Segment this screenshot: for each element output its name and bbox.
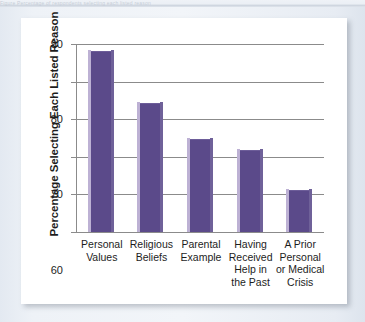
x-axis-label-line: Religious [127, 238, 177, 251]
y-axis-line [76, 44, 77, 232]
bar [237, 150, 263, 232]
y-axis-tick: 60 [71, 157, 76, 158]
y-axis-tick: 50 [71, 194, 76, 195]
x-axis-category-label: ParentalExample [176, 238, 226, 263]
cropped-caption-strip: Figure Percentage of respondents selecti… [0, 0, 365, 7]
bar-group [137, 44, 163, 232]
y-axis-tick: 40 [71, 232, 76, 233]
bar [187, 139, 213, 232]
plot-area: 405060708090 [76, 44, 324, 232]
x-axis-category-labels: PersonalValuesReligiousBeliefsParentalEx… [77, 238, 325, 308]
bar [88, 51, 114, 232]
x-axis-category-label: A PriorPersonalor MedicalCrisis [275, 238, 325, 288]
y-axis-tick: 70 [71, 119, 76, 120]
x-axis-label-line: Help in [226, 263, 276, 276]
x-axis-label-line: the Past [226, 276, 276, 289]
y-axis-tick: 90 [71, 44, 76, 45]
x-axis-category-label: PersonalValues [77, 238, 127, 263]
y-axis-tick-label: 60 [51, 264, 63, 276]
figure-scan-page: Figure Percentage of respondents selecti… [0, 0, 365, 322]
x-axis-label-line: Personal [275, 251, 325, 264]
x-axis-category-label: HavingReceivedHelp inthe Past [226, 238, 276, 288]
x-axis-label-line: Crisis [275, 276, 325, 289]
x-axis-label-line: A Prior [275, 238, 325, 251]
x-axis-label-line: Received [226, 251, 276, 264]
x-axis-baseline [76, 232, 324, 233]
bar-group [286, 44, 312, 232]
x-axis-label-line: Values [77, 251, 127, 264]
bar-group [187, 44, 213, 232]
bar [286, 190, 312, 232]
x-axis-category-label: ReligiousBeliefs [127, 238, 177, 263]
x-axis-label-line: Parental [176, 238, 226, 251]
y-axis-tick-label: 90 [51, 38, 63, 50]
bar-group [88, 44, 114, 232]
x-axis-label-line: or Medical [275, 263, 325, 276]
x-axis-label-line: Personal [77, 238, 127, 251]
bar-group [237, 44, 263, 232]
x-axis-label-line: Example [176, 251, 226, 264]
x-axis-label-line: Having [226, 238, 276, 251]
bar [137, 103, 163, 232]
y-axis-tick: 80 [71, 82, 76, 83]
x-axis-label-line: Beliefs [127, 251, 177, 264]
y-axis-tick-label: 70 [51, 188, 63, 200]
y-axis-tick-label: 80 [51, 113, 63, 125]
chart-panel: Percentage Selecting Each Listed Reason … [21, 18, 347, 304]
